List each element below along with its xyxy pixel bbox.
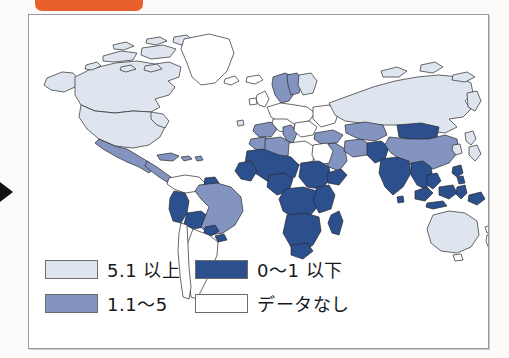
legend-label-no-data: データなし bbox=[257, 290, 350, 316]
legend-item-1-1-to-5: 1.1〜5 bbox=[45, 290, 195, 316]
arrow-marker-icon bbox=[0, 179, 13, 205]
legend-swatch-1-1-to-5 bbox=[45, 294, 98, 313]
legend-item-ge-5-1: 5.1 以上 bbox=[45, 256, 195, 282]
legend-item-0-to-1: 0〜1 以下 bbox=[195, 256, 370, 282]
orange-tab-banner bbox=[35, 0, 143, 11]
map-frame: .c{stroke:#2a2a2a;stroke-width:0.7;strok… bbox=[28, 14, 489, 349]
map-legend: 5.1 以上 0〜1 以下 1.1〜5 データなし bbox=[45, 252, 385, 320]
legend-label-ge-5-1: 5.1 以上 bbox=[107, 256, 180, 282]
legend-label-0-to-1: 0〜1 以下 bbox=[257, 256, 343, 282]
legend-swatch-no-data bbox=[195, 294, 248, 313]
legend-swatch-ge-5-1 bbox=[45, 260, 98, 279]
legend-item-no-data: データなし bbox=[195, 290, 370, 316]
legend-swatch-0-to-1 bbox=[195, 260, 248, 279]
legend-label-1-1-to-5: 1.1〜5 bbox=[107, 290, 168, 316]
page-background: .c{stroke:#2a2a2a;stroke-width:0.7;strok… bbox=[0, 0, 509, 358]
